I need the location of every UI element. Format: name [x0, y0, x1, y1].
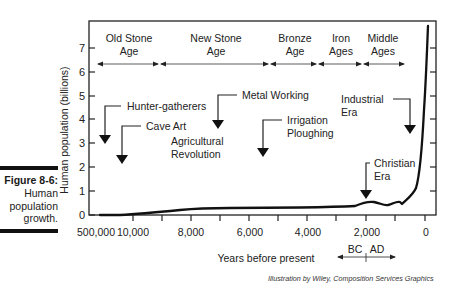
era-iron-ages: IronAges	[329, 32, 353, 57]
figure-caption: Figure 8-6: Human population growth.	[0, 166, 58, 233]
annotation-christian-era: ChristianEra	[360, 157, 416, 199]
era-bronze-age: BronzeAge	[278, 32, 311, 57]
caption-rule-top	[0, 166, 58, 170]
x-tick-label: 2,000	[354, 226, 380, 238]
svg-text:AgriculturalRevolution: AgriculturalRevolution	[171, 135, 224, 160]
x-tick-label: 6,000	[237, 226, 263, 238]
annotations: Hunter-gatherers Cave Art AgriculturalRe…	[99, 89, 416, 199]
x-tick-label: 500,000	[77, 226, 115, 238]
x-axis-label: Years before present	[217, 252, 314, 264]
figure-description-line: Human	[0, 187, 58, 200]
y-tick-label: 7	[79, 42, 85, 54]
svg-text:IrrigationPloughing: IrrigationPloughing	[287, 114, 334, 139]
svg-text:ChristianEra: ChristianEra	[374, 157, 416, 182]
x-axis: 500,000 10,000 8,000 6,000 4,000 2,000 0	[77, 226, 429, 238]
y-tick-label: 3	[79, 137, 85, 149]
caption-rule-bottom	[0, 229, 58, 233]
population-chart: 0 1 2 3 4 5 6 7 Human population (billio…	[0, 0, 459, 289]
svg-text:Metal Working: Metal Working	[242, 89, 309, 101]
x-tick-label: 8,000	[178, 226, 204, 238]
illustration-credit: Illustration by Wiley, Composition Servi…	[268, 274, 434, 283]
y-tick-label: 2	[79, 161, 85, 173]
x-tick-label: 0	[423, 226, 429, 238]
figure-description-line: growth.	[0, 212, 58, 225]
y-axis-label: Human population (billions)	[58, 66, 70, 193]
bc-ad-indicator: BC AD	[338, 243, 395, 262]
figure-description-line: population	[0, 200, 58, 213]
era-old-stone-age: Old StoneAge	[106, 32, 153, 57]
right-ticks	[430, 48, 436, 191]
x-axis-ticks	[133, 215, 425, 221]
annotation-agricultural-revolution: AgriculturalRevolution	[171, 135, 224, 160]
annotation-irrigation-ploughing: IrrigationPloughing	[257, 114, 334, 157]
svg-text:Cave Art: Cave Art	[146, 120, 186, 132]
y-tick-label: 0	[79, 209, 85, 221]
y-tick-label: 4	[79, 113, 85, 125]
era-middle-ages: MiddleAges	[368, 32, 399, 57]
annotation-industrial-era: IndustrialEra	[341, 93, 416, 134]
y-tick-label: 1	[79, 185, 85, 197]
ad-label: AD	[370, 243, 385, 255]
y-tick-label: 5	[79, 90, 85, 102]
svg-text:Hunter-gatherers: Hunter-gatherers	[127, 100, 206, 112]
figure-label: Figure 8-6:	[0, 174, 58, 187]
x-tick-label: 10,000	[117, 226, 149, 238]
era-labels: Old StoneAge New StoneAge BronzeAge Iron…	[106, 32, 399, 57]
bc-label: BC	[348, 243, 363, 255]
x-tick-label: 4,000	[295, 226, 321, 238]
svg-text:IndustrialEra: IndustrialEra	[341, 93, 384, 118]
era-new-stone-age: New StoneAge	[190, 32, 242, 57]
y-tick-label: 6	[79, 66, 85, 78]
y-axis: 0 1 2 3 4 5 6 7	[79, 42, 95, 221]
